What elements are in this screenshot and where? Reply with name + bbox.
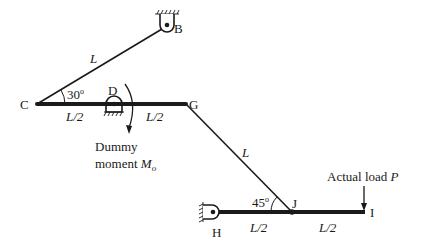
length-label-ji: L/2 (318, 220, 337, 235)
joint-g (184, 102, 188, 106)
member-gj (186, 104, 292, 212)
pin-support-d-icon (104, 96, 124, 116)
actual-load-label: Actual load P (327, 169, 399, 184)
member-cb (37, 26, 167, 104)
frame-diagram: B C D G H I J L L/2 L/2 L L/2 L/2 30o 45… (0, 0, 426, 249)
dummy-moment-label-line2: moment Mo (95, 156, 157, 173)
length-label-cd: L/2 (65, 109, 84, 124)
angle-arc-j-icon (271, 197, 277, 212)
node-label-g: G (189, 97, 198, 112)
joint-c (35, 102, 39, 106)
length-label-dg: L/2 (145, 109, 164, 124)
node-label-i: I (370, 205, 374, 220)
angle-label-c: 30o (67, 87, 84, 102)
angle-arc-c-icon (61, 90, 65, 104)
length-label-gj: L (241, 145, 249, 160)
angle-label-j: 45o (252, 195, 269, 210)
node-label-j: J (292, 196, 297, 211)
node-label-b: B (174, 21, 183, 36)
node-label-c: C (20, 97, 29, 112)
length-label-cb: L (89, 51, 97, 66)
load-arrow-icon (361, 186, 367, 211)
dummy-moment-label-line1: Dummy (95, 139, 138, 154)
dummy-moment-arrow-icon (125, 84, 133, 134)
pin-support-h-icon (199, 202, 219, 222)
node-label-d: D (108, 83, 117, 98)
node-label-h: H (212, 225, 221, 240)
length-label-hj: L/2 (249, 220, 268, 235)
